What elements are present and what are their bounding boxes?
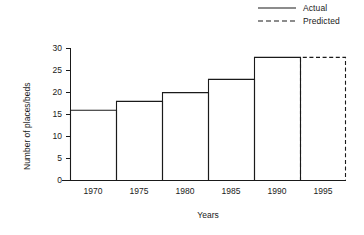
chart-figure: Actual Predicted 30 25 20 15 10 5 0 1970… [0,0,364,235]
bar-1975 [117,101,163,180]
x-tick-label-1975: 1975 [116,186,162,196]
bar-1995-predicted [301,57,346,180]
bar-1985 [209,79,255,180]
y-axis [66,48,71,181]
y-tick-label-25: 25 [40,65,62,75]
y-tick-label-30: 30 [40,43,62,53]
legend-label-predicted: Predicted [303,16,340,26]
bar-1970 [71,110,117,180]
y-tick-label-15: 15 [40,109,62,119]
x-tick-label-1980: 1980 [162,186,208,196]
x-tick-label-1995: 1995 [300,186,346,196]
y-tick-label-0: 0 [40,175,62,185]
x-tick-label-1970: 1970 [70,186,116,196]
y-tick-label-10: 10 [40,131,62,141]
y-tick-label-20: 20 [40,87,62,97]
bar-1980 [163,93,209,181]
y-axis-title: Number of places/beds [22,83,32,170]
y-tick-label-5: 5 [40,153,62,163]
x-axis-title: Years [158,210,258,220]
legend-label-actual: Actual [303,3,327,13]
bar-1990 [255,57,301,180]
x-tick-label-1990: 1990 [254,186,300,196]
x-tick-label-1985: 1985 [208,186,254,196]
